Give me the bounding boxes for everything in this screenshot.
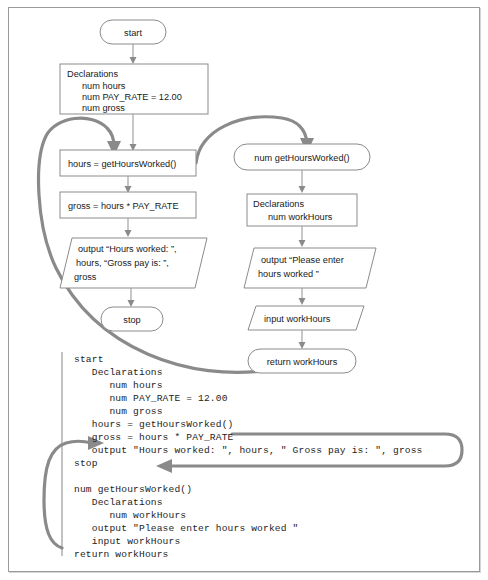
pseudocode-line-11: num getHoursWorked() bbox=[74, 484, 192, 495]
method-output-line-1: output “Please enter bbox=[261, 255, 344, 265]
output-line-1: output “Hours worked: ”, bbox=[78, 244, 177, 254]
pseudocode-line-8: output "Hours worked: ", hours, " Gross … bbox=[74, 445, 423, 456]
flowchart-method-output-parallelogram: output “Please enter hours worked ” bbox=[244, 248, 376, 288]
flowchart-stop-terminator: stop bbox=[101, 307, 163, 331]
pseudocode-line-2: Declarations bbox=[74, 367, 163, 378]
pseudocode-line-3: num hours bbox=[74, 380, 163, 391]
declarations-header: Declarations bbox=[67, 69, 118, 79]
method-declarations-line-1: num workHours bbox=[268, 212, 333, 222]
flowchart-method-input-parallelogram: input workHours bbox=[248, 306, 364, 330]
stop-label: stop bbox=[123, 315, 140, 325]
declarations-line-3: num gross bbox=[82, 103, 125, 113]
pseudocode-line-9: stop bbox=[74, 458, 98, 469]
pseudocode-line-7: gross = hours * PAY_RATE bbox=[74, 432, 234, 443]
declarations-line-2: num PAY_RATE = 12.00 bbox=[82, 92, 182, 102]
pseudocode-line-1: start bbox=[74, 354, 104, 365]
pseudocode-line-4: num PAY_RATE = 12.00 bbox=[74, 393, 228, 404]
flowchart-method-declarations-box: Declarations num workHours bbox=[247, 194, 357, 226]
pseudocode-line-12: Declarations bbox=[74, 497, 163, 508]
method-header-label: num getHoursWorked() bbox=[254, 153, 349, 163]
figure-page: start Declarations num hours num PAY_RAT… bbox=[0, 0, 488, 580]
output-line-3: gross bbox=[74, 272, 97, 282]
pseudocode-line-6: hours = getHoursWorked() bbox=[74, 419, 234, 430]
pseudocode-line-16: return workHours bbox=[74, 549, 169, 560]
pseudocode-line-14: output "Please enter hours worked " bbox=[74, 523, 298, 534]
method-declarations-header: Declarations bbox=[253, 199, 304, 209]
pseudocode-line-13: num workHours bbox=[74, 510, 186, 521]
pseudocode-listing: start Declarations num hours num PAY_RAT… bbox=[74, 354, 423, 560]
flowchart-call-box: hours = getHoursWorked() bbox=[60, 150, 196, 176]
pseudocode-line-5: num gross bbox=[74, 406, 163, 417]
method-input-label: input workHours bbox=[264, 314, 331, 324]
method-return-label: return workHours bbox=[267, 357, 338, 367]
flowchart-method-header-terminator: num getHoursWorked() bbox=[234, 144, 370, 170]
declarations-line-1: num hours bbox=[82, 81, 126, 91]
compute-label: gross = hours * PAY_RATE bbox=[68, 201, 179, 211]
start-label: start bbox=[124, 28, 142, 38]
flowchart-start-terminator: start bbox=[100, 20, 166, 44]
call-label: hours = getHoursWorked() bbox=[68, 159, 176, 169]
output-line-2: hours, “Gross pay is: ”, bbox=[76, 258, 169, 268]
flowchart-compute-box: gross = hours * PAY_RATE bbox=[60, 192, 196, 218]
flowchart-output-parallelogram: output “Hours worked: ”, hours, “Gross p… bbox=[60, 238, 207, 288]
flowchart-method-return-terminator: return workHours bbox=[248, 349, 356, 373]
method-output-line-2: hours worked ” bbox=[258, 269, 319, 279]
flowchart-declarations-box: Declarations num hours num PAY_RATE = 12… bbox=[60, 64, 208, 114]
flowchart-canvas: start Declarations num hours num PAY_RAT… bbox=[0, 0, 488, 580]
pseudocode-line-15: input workHours bbox=[74, 536, 180, 547]
